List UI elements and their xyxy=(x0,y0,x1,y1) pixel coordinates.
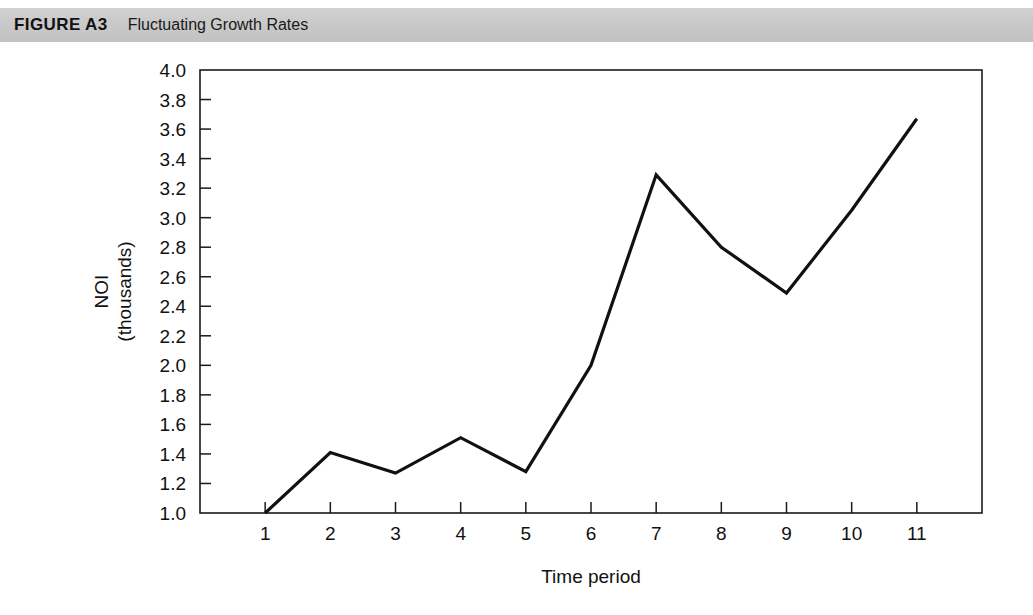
x-tick-label: 8 xyxy=(716,523,727,544)
y-tick-label: 2.0 xyxy=(160,355,186,376)
y-axis-ticks: 1.01.21.41.61.82.02.22.42.62.83.03.23.43… xyxy=(160,60,211,524)
x-tick-label: 1 xyxy=(260,523,271,544)
line-chart: 1.01.21.41.61.82.02.22.42.62.83.03.23.43… xyxy=(0,42,1033,615)
y-tick-label: 3.4 xyxy=(160,149,187,170)
x-tick-label: 2 xyxy=(325,523,336,544)
y-tick-label: 1.6 xyxy=(160,414,186,435)
y-tick-label: 2.4 xyxy=(160,296,187,317)
figure-header-band: FIGURE A3 Fluctuating Growth Rates xyxy=(0,8,1033,42)
x-axis-ticks: 1234567891011 xyxy=(260,502,927,544)
x-axis-title: Time period xyxy=(541,566,641,587)
plot-frame xyxy=(200,70,982,513)
chart-container: 1.01.21.41.61.82.02.22.42.62.83.03.23.43… xyxy=(0,42,1033,615)
x-tick-label: 5 xyxy=(521,523,532,544)
y-tick-label: 3.2 xyxy=(160,178,186,199)
y-tick-label: 4.0 xyxy=(160,60,186,81)
x-tick-label: 11 xyxy=(907,523,927,544)
figure-label: FIGURE A3 xyxy=(14,15,108,35)
y-tick-label: 2.2 xyxy=(160,326,186,347)
y-tick-label: 1.8 xyxy=(160,385,186,406)
y-tick-label: 2.6 xyxy=(160,267,186,288)
y-tick-label: 3.0 xyxy=(160,208,186,229)
x-tick-label: 7 xyxy=(651,523,662,544)
y-axis-title-line1: NOI xyxy=(91,275,112,309)
figure-title: Fluctuating Growth Rates xyxy=(128,16,309,34)
y-tick-label: 3.8 xyxy=(160,90,186,111)
x-tick-label: 9 xyxy=(781,523,792,544)
y-tick-label: 1.0 xyxy=(160,503,186,524)
x-tick-label: 3 xyxy=(390,523,401,544)
y-tick-label: 1.2 xyxy=(160,473,186,494)
x-tick-label: 10 xyxy=(841,523,862,544)
y-axis-title-line2: (thousands) xyxy=(114,241,135,341)
y-tick-label: 1.4 xyxy=(160,444,187,465)
x-tick-label: 6 xyxy=(586,523,597,544)
noi-data-line xyxy=(265,119,917,513)
x-tick-label: 4 xyxy=(455,523,466,544)
y-tick-label: 3.6 xyxy=(160,119,186,140)
y-tick-label: 2.8 xyxy=(160,237,186,258)
